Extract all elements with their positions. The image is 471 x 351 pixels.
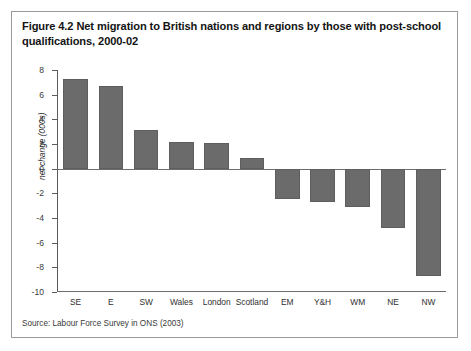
- y-axis-tick-label: 4: [39, 114, 44, 124]
- bar: [345, 169, 370, 207]
- y-axis-tick: 8: [52, 70, 57, 71]
- bar: [240, 158, 265, 169]
- x-axis-tick-label: NE: [375, 297, 410, 307]
- x-axis-tick-label: EM: [270, 297, 305, 307]
- y-axis-tick: 4: [52, 119, 57, 120]
- y-axis-tick-label: -6: [36, 238, 44, 248]
- y-axis-tick-label: -10: [32, 287, 44, 297]
- bar: [99, 86, 124, 169]
- bar-slot: NE: [375, 70, 410, 292]
- y-axis-tick-label: -2: [36, 188, 44, 198]
- y-axis-tick-label: 2: [39, 139, 44, 149]
- bar-slot: E: [93, 70, 128, 292]
- y-axis-tick-label: -4: [36, 213, 44, 223]
- figure-title: Figure 4.2 Net migration to British nati…: [22, 19, 446, 48]
- plot-area: 86420-2-4-6-8-10 SEESWWalesLondonScotlan…: [57, 70, 446, 292]
- bar-slot: Y&H: [305, 70, 340, 292]
- x-axis-tick-label: Scotland: [234, 297, 269, 307]
- x-axis-tick-label: Y&H: [305, 297, 340, 307]
- bar-slot: Scotland: [234, 70, 269, 292]
- bar: [310, 169, 335, 202]
- x-axis-tick-label: London: [199, 297, 234, 307]
- bar: [63, 79, 88, 169]
- bar-slot: London: [199, 70, 234, 292]
- bar-slot: Wales: [164, 70, 199, 292]
- y-axis-tick: 2: [52, 144, 57, 145]
- bar-slot: NW: [411, 70, 446, 292]
- x-axis-tick-label: Wales: [164, 297, 199, 307]
- y-axis-tick: -10: [52, 292, 57, 293]
- bar: [134, 130, 159, 168]
- y-axis-tick: -2: [52, 193, 57, 194]
- y-axis-tick-label: 0: [39, 164, 44, 174]
- y-axis-tick-label: -8: [36, 262, 44, 272]
- y-axis-tick: -4: [52, 218, 57, 219]
- bar: [169, 142, 194, 169]
- y-axis-tick: -6: [52, 243, 57, 244]
- x-axis-tick-label: E: [93, 297, 128, 307]
- bar-slot: SE: [58, 70, 93, 292]
- source-note: Source: Labour Force Survey in ONS (2003…: [22, 319, 184, 328]
- bar-slot: WM: [340, 70, 375, 292]
- bar: [416, 169, 441, 276]
- y-axis-tick: 6: [52, 95, 57, 96]
- bar: [381, 169, 406, 228]
- bar-series: SEESWWalesLondonScotlandEMY&HWMNENW: [58, 70, 446, 292]
- y-axis-tick-label: 8: [39, 65, 44, 75]
- figure-panel: Figure 4.2 Net migration to British nati…: [11, 11, 458, 338]
- y-axis-tick-label: 6: [39, 90, 44, 100]
- bar-slot: EM: [270, 70, 305, 292]
- bar-chart: net change (000s) 86420-2-4-6-8-10 SEESW…: [12, 57, 459, 307]
- bar: [204, 143, 229, 169]
- x-axis-tick-label: SW: [129, 297, 164, 307]
- y-axis-tick: -8: [52, 267, 57, 268]
- x-axis-tick-label: NW: [411, 297, 446, 307]
- bar: [275, 169, 300, 200]
- x-axis-tick-label: SE: [58, 297, 93, 307]
- bar-slot: SW: [129, 70, 164, 292]
- x-axis-tick-label: WM: [340, 297, 375, 307]
